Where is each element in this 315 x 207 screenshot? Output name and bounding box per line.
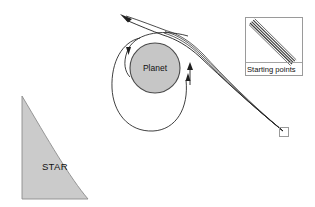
planet-label: Planet: [143, 63, 168, 73]
trajectory-figure: STAR Planet: [0, 0, 315, 207]
starting-points-inset: Starting points: [246, 18, 303, 76]
inset-label: Starting points: [247, 65, 296, 74]
figure-canvas: STAR Planet: [0, 0, 315, 207]
escape-arrowhead: [120, 14, 132, 23]
escape-trajectory: [120, 14, 166, 35]
star-shape: [22, 96, 88, 199]
star-label: STAR: [42, 161, 68, 172]
